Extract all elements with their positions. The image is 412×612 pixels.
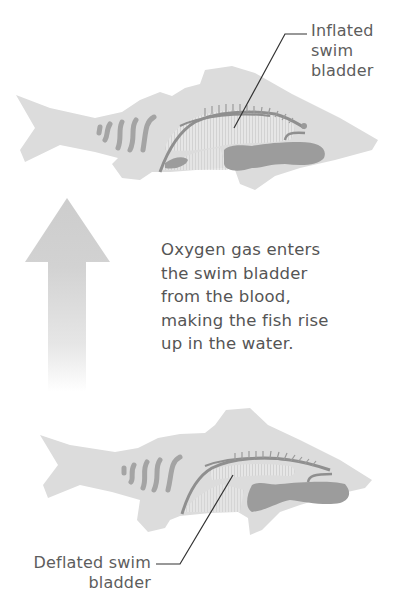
explanation-caption: Oxygen gas enters the swim bladder from … <box>161 238 329 356</box>
label-line: Deflated swim <box>24 553 151 573</box>
fish-deflated <box>40 408 372 535</box>
inflated-swim-bladder-label: Inflated swim bladder <box>311 21 374 81</box>
caption-line: the swim bladder <box>161 262 329 286</box>
up-arrow-icon <box>25 198 110 392</box>
label-line: Inflated <box>311 21 374 41</box>
organs <box>247 482 349 512</box>
fish-inflated <box>16 66 378 190</box>
caption-line: up in the water. <box>161 332 329 356</box>
label-line: bladder <box>24 573 151 593</box>
label-line: swim <box>311 41 374 61</box>
caption-line: making the fish rise <box>161 309 329 333</box>
label-line: bladder <box>311 61 374 81</box>
caption-line: from the blood, <box>161 285 329 309</box>
caption-line: Oxygen gas enters <box>161 238 329 262</box>
deflated-swim-bladder-label: Deflated swim bladder <box>24 553 151 593</box>
